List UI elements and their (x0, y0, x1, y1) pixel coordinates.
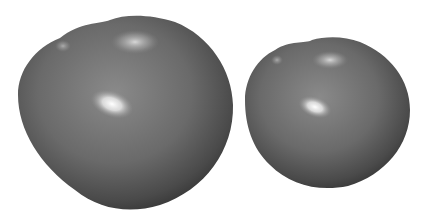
small-fruit (245, 37, 410, 188)
fruit-illustration (0, 0, 426, 223)
large-fruit (18, 16, 233, 210)
stem-highlight (312, 51, 348, 69)
stem-highlight (111, 30, 159, 54)
photo-canvas (0, 0, 426, 223)
